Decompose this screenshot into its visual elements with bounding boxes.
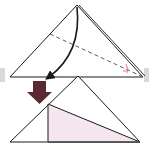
step-1-triangle [10,5,143,77]
down-arrow-icon [27,81,52,104]
step-1 [10,5,145,77]
step-2 [10,76,140,142]
origami-diagram [0,0,149,149]
